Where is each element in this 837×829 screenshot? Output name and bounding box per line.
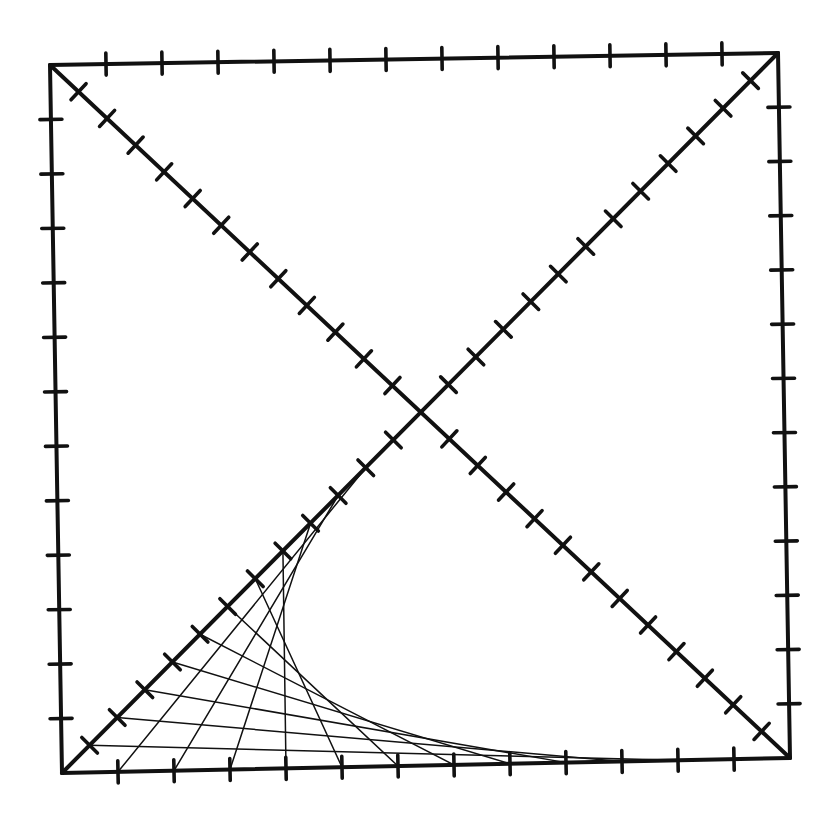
string-lines (90, 468, 678, 772)
string-art-diagram (0, 0, 837, 829)
diagonals (50, 53, 790, 773)
bottom-edge (62, 758, 790, 773)
top-edge (50, 53, 778, 65)
right-edge (778, 53, 790, 758)
string-line (255, 579, 342, 767)
string-line (118, 468, 366, 772)
diagonal-bl-tr (62, 53, 778, 773)
left-edge (50, 65, 62, 773)
